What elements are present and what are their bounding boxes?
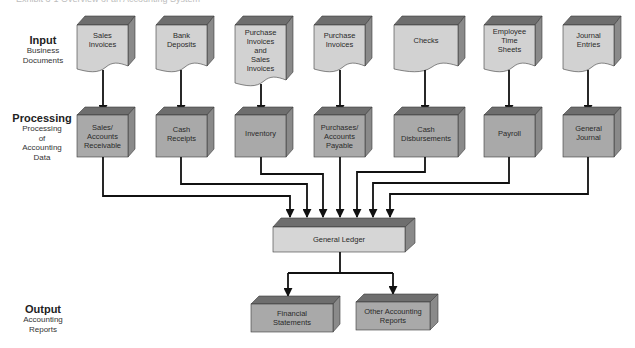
row-label-processing: Processing Processing of Accounting Data: [12, 112, 72, 162]
row-subheading: Business Documents: [18, 46, 68, 65]
row-subheading: Accounting Reports: [18, 315, 68, 334]
general-ledger-label: General Ledger: [273, 227, 405, 252]
row-subheading: Processing of Accounting Data: [12, 124, 72, 162]
row-heading: Processing: [12, 112, 72, 124]
output-label-financial-statements: Financial Statements: [251, 304, 333, 332]
document-label-employee-time-sheets: Employee Time Sheets: [484, 25, 535, 55]
document-label-journal-entries: Journal Entries: [563, 25, 614, 55]
process-label-purchases-ap: Purchases/ Accounts Payable: [314, 115, 365, 157]
process-label-general-journal: General Journal: [563, 115, 614, 151]
document-label-bank-deposits: Bank Deposits: [156, 25, 207, 55]
process-label-sales-ar: Sales/ Accounts Receivable: [77, 115, 128, 157]
process-label-payroll: Payroll: [484, 115, 535, 151]
process-label-cash-disbursements: Cash Disbursements: [394, 115, 458, 153]
row-label-input: Input Business Documents: [18, 34, 68, 65]
row-heading: Input: [18, 34, 68, 46]
row-label-output: Output Accounting Reports: [18, 303, 68, 334]
document-label-checks: Checks: [394, 25, 458, 55]
document-label-purchase-and-sales-invoices: Purchase Invoices and Sales Invoices: [235, 25, 286, 75]
input-arrows: [103, 70, 588, 113]
process-label-inventory: Inventory: [235, 115, 286, 151]
row-heading: Output: [18, 303, 68, 315]
process-label-cash-receipts: Cash Receipts: [156, 115, 207, 153]
document-label-purchase-invoices: Purchase Invoices: [314, 25, 365, 55]
document-label-sales-invoices: Sales Invoices: [77, 25, 128, 55]
output-connectors: [288, 252, 393, 296]
output-label-other-accounting-reports: Other Accounting Reports: [356, 302, 430, 330]
ledger-connectors: [103, 157, 588, 217]
